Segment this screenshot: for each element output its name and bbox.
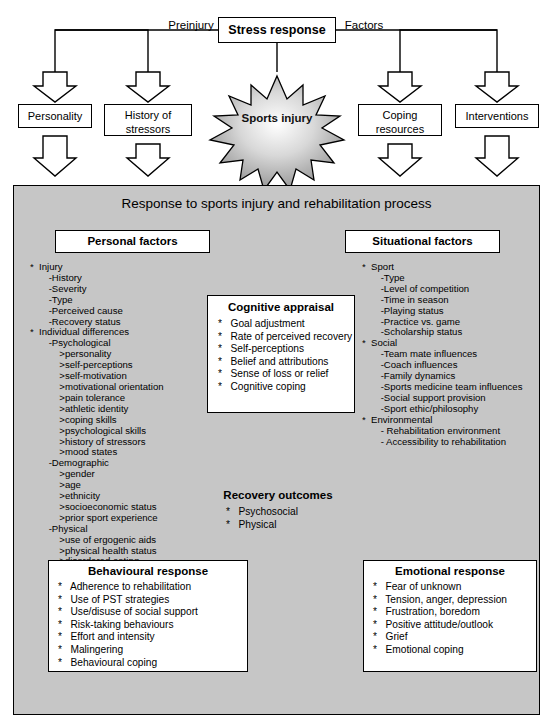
recovery-outcomes-title: Recovery outcomes: [198, 489, 358, 501]
stress-response-box: Stress response: [218, 17, 336, 43]
situational-factors-box: Situational factors: [345, 230, 500, 253]
sports-injury-starburst: [210, 76, 344, 190]
factors-label: Factors: [334, 19, 394, 32]
stress-response-label: Stress response: [228, 23, 325, 37]
history-of-stressors-label: History of stressors: [125, 109, 171, 135]
interventions-label: Interventions: [466, 110, 529, 122]
coping-resources-label: Coping resources: [376, 109, 424, 135]
cognitive-appraisal-title: Cognitive appraisal: [208, 296, 354, 313]
cognitive-appraisal-items: * Goal adjustment * Rate of perceived re…: [208, 313, 354, 394]
behavioural-response-title: Behavioural response: [49, 561, 247, 577]
personal-factors-label: Personal factors: [87, 235, 177, 247]
situational-factors-list: * Sport -Type -Level of competition -Tim…: [362, 262, 523, 447]
personal-factors-list: * Injury -History -Severity -Type -Perce…: [30, 262, 164, 567]
history-of-stressors-box: History of stressors: [104, 104, 192, 136]
emotional-response-title: Emotional response: [364, 561, 536, 577]
situational-factors-label: Situational factors: [372, 235, 472, 247]
recovery-outcomes-items: * Psychosocial * Physical: [198, 506, 358, 532]
emotional-response-items: * Fear of unknown * Tension, anger, depr…: [364, 577, 536, 657]
preinjury-label: Preinjury: [156, 19, 226, 32]
conceptual-model-diagram: Stress response Preinjury Factors Person…: [0, 0, 552, 728]
personality-label: Personality: [28, 110, 82, 122]
interventions-box: Interventions: [455, 104, 539, 128]
personal-factors-box: Personal factors: [55, 230, 210, 253]
personality-box: Personality: [18, 104, 92, 128]
sports-injury-label: Sports injury: [215, 112, 339, 124]
behavioural-response-items: * Adherence to rehabilitation * Use of P…: [49, 577, 247, 669]
panel-heading: Response to sports injury and rehabilita…: [13, 196, 540, 211]
coping-resources-box: Coping resources: [358, 104, 442, 136]
emotional-response-box: Emotional response * Fear of unknown * T…: [363, 560, 537, 672]
behavioural-response-box: Behavioural response * Adherence to reha…: [48, 560, 248, 672]
cognitive-appraisal-box: Cognitive appraisal * Goal adjustment * …: [207, 295, 355, 413]
